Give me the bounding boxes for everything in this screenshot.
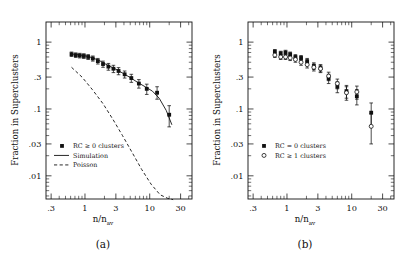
panel-b-legend-label: RC ≥ 1 clusters: [275, 152, 326, 160]
panel-b-datapoint-open: [279, 55, 283, 59]
panel-a-legend-label: RC ≥ 0 clusters: [73, 142, 124, 150]
panel-a-yaxis-title: Fraction in Superclusters: [10, 54, 20, 165]
panel-a-xticklabel: 3: [113, 203, 118, 213]
panel-b: .31310301.3.1.03.01RC = 0 clustersRC ≥ 1…: [202, 0, 405, 261]
panel-a-datapoint-filled: [137, 82, 141, 86]
panel-a-datapoint-filled: [167, 113, 171, 117]
panel-a-xaxis-title-sub: av: [107, 220, 114, 226]
panel-b-datapoint-filled: [284, 51, 288, 55]
panel-a-plot-area: .31310301.3.1.03.01RC ≥ 0 clustersSimula…: [28, 22, 192, 213]
panel-a-xticklabel: .3: [47, 203, 55, 213]
panel-a-xticklabel: 30: [175, 203, 185, 213]
panel-b-legend-marker-open: [262, 153, 266, 157]
panel-b-datapoint-open: [344, 91, 348, 95]
panel-a: .31310301.3.1.03.01RC ≥ 0 clustersSimula…: [0, 0, 203, 261]
panel-b-datapoint-open: [327, 74, 331, 78]
panel-b-caption: (b): [298, 238, 313, 250]
panel-b-xaxis-title-sub: av: [309, 220, 316, 226]
panel-b-xticklabel: 30: [377, 203, 387, 213]
panel-a-xticklabel: 10: [145, 203, 155, 213]
panel-b-plot-area: .31310301.3.1.03.01RC = 0 clustersRC ≥ 1…: [230, 22, 394, 213]
panel-a-legend-label: Simulation: [73, 152, 108, 160]
panel-a-curve-dashed: [72, 67, 174, 199]
panel-a-datapoint-filled: [145, 87, 149, 91]
panel-b-datapoint-open: [288, 56, 292, 60]
panel-a-caption: (a): [96, 238, 110, 250]
panel-a-canvas: .31310301.3.1.03.01RC ≥ 0 clustersSimula…: [0, 0, 203, 261]
panel-b-datapoint-open: [293, 57, 297, 61]
panel-a-datapoint-filled: [78, 54, 82, 58]
panel-b-yticklabel: .3: [236, 72, 244, 82]
panel-b-datapoint-open: [312, 65, 316, 69]
panel-a-datapoint-filled: [91, 57, 95, 61]
panel-a-yticklabel: .3: [34, 72, 42, 82]
panel-a-datapoint-filled: [70, 52, 74, 56]
panel-a-datapoint-filled: [82, 54, 86, 58]
panel-a-datapoint-filled: [96, 59, 100, 63]
panel-a-datapoint-filled: [155, 91, 159, 95]
panel-a-xaxis-title-main: n/n: [93, 214, 107, 224]
panel-b-xticklabel: 3: [315, 203, 320, 213]
panel-a-datapoint-filled: [112, 67, 116, 71]
panel-b-canvas: .31310301.3.1.03.01RC = 0 clustersRC ≥ 1…: [202, 0, 405, 261]
panel-b-yticklabel: 1: [238, 37, 243, 47]
panel-a-datapoint-filled: [117, 69, 121, 73]
panel-b-legend-label: RC = 0 clusters: [275, 142, 326, 150]
panel-b-yaxis-title: Fraction in Superclusters: [212, 54, 222, 165]
panel-a-datapoint-filled: [101, 62, 105, 66]
panel-a-xticklabel: 1: [82, 203, 87, 213]
figure-root: .31310301.3.1.03.01RC ≥ 0 clustersSimula…: [0, 0, 405, 261]
panel-b-yticklabel: .1: [236, 104, 244, 114]
panel-b-xticklabel: 1: [284, 203, 289, 213]
panel-b-xaxis-title: n/nav: [295, 214, 316, 226]
panel-a-datapoint-filled: [123, 72, 127, 76]
panel-b-datapoint-open: [305, 63, 309, 67]
panel-b-datapoint-open: [273, 53, 277, 57]
panel-a-legend-label: Poisson: [73, 161, 97, 169]
panel-b-legend-marker-filled: [262, 144, 266, 148]
panel-b-axes-frame: [248, 22, 394, 199]
panel-b-datapoint-open: [319, 67, 323, 71]
panel-b-xticklabel: .3: [249, 203, 257, 213]
panel-b-datapoint-open: [299, 60, 303, 64]
panel-b-datapoint-open: [355, 90, 359, 94]
panel-b-datapoint-open: [284, 55, 288, 59]
panel-a-xaxis-title: n/nav: [93, 214, 114, 226]
panel-b-yticklabel: .01: [230, 171, 243, 181]
panel-b-xaxis-title-main: n/n: [295, 214, 309, 224]
panel-b-yticklabel: .03: [230, 139, 243, 149]
panel-a-axes-frame: [46, 22, 192, 199]
panel-a-yticklabel: .03: [28, 139, 41, 149]
panel-a-yticklabel: 1: [36, 37, 41, 47]
panel-a-datapoint-filled: [74, 53, 78, 57]
panel-b-datapoint-open: [335, 82, 339, 86]
panel-a-datapoint-filled: [86, 55, 90, 59]
panel-a-yticklabel: .01: [28, 171, 41, 181]
panel-b-datapoint-open: [369, 124, 373, 128]
panel-a-datapoint-filled: [106, 65, 110, 69]
panel-a-legend-marker-filled: [60, 144, 64, 148]
panel-b-xticklabel: 10: [347, 203, 357, 213]
panel-a-datapoint-filled: [129, 76, 133, 80]
panel-a-yticklabel: .1: [34, 104, 42, 114]
